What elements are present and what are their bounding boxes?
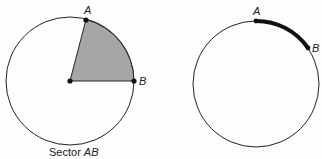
caption-prefix: Sector [49,146,84,158]
arc-ab [256,21,308,48]
label-a: A [252,5,260,17]
point-a [83,17,88,22]
sector-figure: A B Sector AB [6,4,146,158]
shaded-sector [70,20,134,82]
center-point [67,78,72,83]
caption: Sector AB [49,146,99,158]
label-b: B [312,42,319,54]
label-b: B [139,75,146,87]
point-b [131,78,136,83]
point-b [306,46,311,51]
caption-italic: AB [83,146,99,158]
diagram-canvas: A B Sector AB A B [0,0,322,159]
arc-figure: A B [193,5,319,147]
diagram-svg: A B Sector AB A B [0,0,322,159]
point-a [254,19,259,24]
label-a: A [83,4,91,16]
